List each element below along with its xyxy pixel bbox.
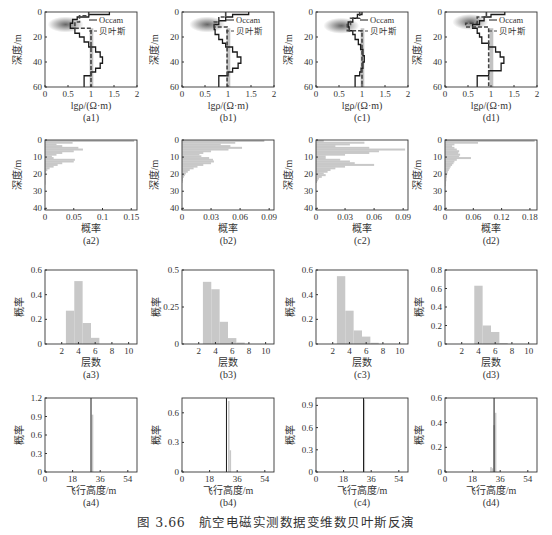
panel-label: (b3) xyxy=(220,369,237,381)
depth-bar xyxy=(182,152,203,154)
svg-text:0: 0 xyxy=(175,467,180,477)
depth-bar xyxy=(445,169,449,171)
panel-label: (c1) xyxy=(354,112,370,124)
svg-text:0.2: 0.2 xyxy=(431,321,442,331)
svg-text:40: 40 xyxy=(170,57,180,67)
depth-bar xyxy=(182,160,214,162)
panel-c2: 00.030.060.09010203040概率(c2)深度/m xyxy=(282,135,412,247)
depth-bar xyxy=(445,159,457,161)
svg-text:1.5: 1.5 xyxy=(508,89,520,99)
svg-text:1: 1 xyxy=(226,89,231,99)
depth-bar xyxy=(445,142,478,144)
depth-bar xyxy=(45,143,57,145)
svg-text:0.12: 0.12 xyxy=(494,212,510,222)
y-axis-label: 概率 xyxy=(284,425,296,445)
svg-text:10: 10 xyxy=(524,346,534,356)
depth-bar xyxy=(45,145,62,147)
svg-text:0.5: 0.5 xyxy=(333,89,345,99)
height-bar xyxy=(230,450,232,472)
svg-text:10: 10 xyxy=(433,152,443,162)
svg-text:0: 0 xyxy=(309,339,314,349)
svg-text:0.6: 0.6 xyxy=(302,265,314,275)
depth-bar xyxy=(182,164,203,166)
depth-bar xyxy=(182,145,230,147)
svg-text:0.05: 0.05 xyxy=(66,212,82,222)
depth-bar xyxy=(445,145,452,147)
svg-text:0: 0 xyxy=(43,89,48,99)
svg-text:8: 8 xyxy=(510,346,515,356)
svg-text:0.3: 0.3 xyxy=(168,437,180,447)
x-axis-label: 层数 xyxy=(481,356,501,368)
svg-text:30: 30 xyxy=(433,186,443,196)
height-bar xyxy=(92,415,94,472)
depth-bar xyxy=(316,154,345,156)
svg-text:18: 18 xyxy=(205,474,215,484)
depth-bar xyxy=(182,149,228,151)
legend-occam: Occam xyxy=(499,15,523,25)
svg-text:0: 0 xyxy=(438,7,443,17)
svg-text:8: 8 xyxy=(381,346,386,356)
panel-label: (c4) xyxy=(354,497,370,509)
x-axis-label: 飞行高度/m xyxy=(466,484,517,496)
svg-text:0.6: 0.6 xyxy=(168,408,180,418)
svg-text:30: 30 xyxy=(170,186,180,196)
layer-bar xyxy=(66,311,74,344)
height-bar xyxy=(492,468,494,472)
svg-text:0.09: 0.09 xyxy=(395,212,411,222)
y-axis-label: 概率 xyxy=(150,297,162,317)
svg-text:54: 54 xyxy=(123,474,133,484)
panel-label: (d4) xyxy=(483,497,500,509)
panel-a4: 018365400.30.60.91.2飞行高度/m(a4)概率 xyxy=(13,393,137,509)
layer-bar xyxy=(211,289,219,344)
depth-bar xyxy=(45,147,78,149)
depth-bar xyxy=(45,150,74,152)
svg-text:2: 2 xyxy=(59,346,64,356)
svg-text:20: 20 xyxy=(170,169,180,179)
svg-text:0: 0 xyxy=(443,474,448,484)
panel-label: (c2) xyxy=(354,235,370,247)
y-axis-label: 深度/m xyxy=(148,160,160,191)
svg-text:0.5: 0.5 xyxy=(168,265,180,275)
legend-bayes: 贝叶斯 xyxy=(99,26,126,36)
panel-label: (a2) xyxy=(83,235,99,247)
svg-text:20: 20 xyxy=(433,169,443,179)
depth-bar xyxy=(182,147,242,149)
svg-text:0.6: 0.6 xyxy=(431,284,443,294)
svg-text:54: 54 xyxy=(394,474,404,484)
depth-bar xyxy=(445,152,458,154)
svg-text:0.06: 0.06 xyxy=(232,212,248,222)
panel-label: (d2) xyxy=(483,235,500,247)
svg-text:30: 30 xyxy=(33,186,43,196)
svg-text:0: 0 xyxy=(43,474,48,484)
depth-bar xyxy=(316,169,331,171)
svg-text:0: 0 xyxy=(43,212,48,222)
svg-text:40: 40 xyxy=(33,57,43,67)
svg-text:60: 60 xyxy=(433,82,443,92)
svg-text:2: 2 xyxy=(272,89,277,99)
panel-a3: 24681000.20.40.6层数(a3)概率 xyxy=(13,265,137,381)
svg-text:40: 40 xyxy=(304,203,314,213)
svg-text:8: 8 xyxy=(247,346,252,356)
depth-bar xyxy=(182,143,221,145)
height-bar xyxy=(228,401,230,472)
x-axis-label: 飞行高度/m xyxy=(203,484,254,496)
x-axis-label: 层数 xyxy=(352,356,372,368)
svg-text:4: 4 xyxy=(476,346,481,356)
figure: Occam贝叶斯00.511.520204060lgρ/(Ω·m)(a1)深度/… xyxy=(0,0,552,535)
svg-text:0.18: 0.18 xyxy=(522,212,538,222)
depth-bar xyxy=(445,160,454,162)
depth-bar xyxy=(45,162,62,164)
svg-text:20: 20 xyxy=(433,32,443,42)
svg-text:20: 20 xyxy=(170,32,180,42)
depth-bar xyxy=(445,166,451,168)
legend-bayes: 贝叶斯 xyxy=(370,26,397,36)
svg-text:0: 0 xyxy=(175,135,180,145)
svg-text:10: 10 xyxy=(261,346,271,356)
depth-bar xyxy=(45,159,75,161)
svg-text:6: 6 xyxy=(230,346,235,356)
svg-text:20: 20 xyxy=(304,32,314,42)
y-axis-label: 概率 xyxy=(150,425,162,445)
svg-text:0.25: 0.25 xyxy=(163,302,179,312)
y-axis-label: 深度/m xyxy=(11,160,23,191)
svg-text:0.09: 0.09 xyxy=(261,212,277,222)
